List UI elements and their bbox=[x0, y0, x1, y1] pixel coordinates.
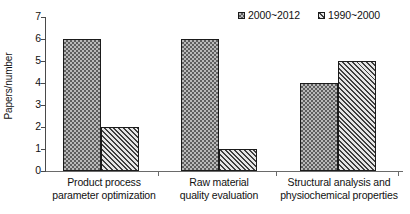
y-tick-label-3: 3 bbox=[35, 98, 41, 111]
y-tick-label-4: 4 bbox=[35, 76, 41, 89]
x-category-label-2-line2: quality evaluation bbox=[163, 189, 275, 202]
y-tick-label-7: 7 bbox=[35, 10, 41, 23]
x-category-label-3: Structural analysis and physiochemical p… bbox=[273, 176, 405, 202]
x-category-label-2: Raw material quality evaluation bbox=[163, 176, 275, 202]
x-category-label-3-line2: physiochemical properties bbox=[273, 189, 405, 202]
bar-group3-series1 bbox=[300, 83, 338, 171]
y-tick-label-1: 1 bbox=[35, 142, 41, 155]
x-category-label-3-line1: Structural analysis and bbox=[273, 176, 405, 189]
bar-group1-series2 bbox=[101, 127, 139, 171]
bar-group2-series2 bbox=[219, 149, 257, 171]
bar-chart: 2000~2012 1990~2000 Papers/number 0 1 2 … bbox=[0, 0, 410, 214]
x-axis-category-labels: Product process parameter optimization R… bbox=[45, 176, 403, 212]
bar-group2-series1 bbox=[181, 39, 219, 171]
x-category-label-1-line2: parameter optimization bbox=[39, 189, 169, 202]
y-axis-title: Papers/number bbox=[2, 0, 16, 172]
y-tick-label-5: 5 bbox=[35, 54, 41, 67]
y-tick-label-6: 6 bbox=[35, 32, 41, 45]
y-tick-label-2: 2 bbox=[35, 120, 41, 133]
bar-group1-series1 bbox=[63, 39, 101, 171]
x-category-label-2-line1: Raw material bbox=[163, 176, 275, 189]
x-category-label-1: Product process parameter optimization bbox=[39, 176, 169, 202]
plot-area: 0 1 2 3 4 5 6 7 bbox=[45, 18, 403, 172]
x-category-label-1-line1: Product process bbox=[39, 176, 169, 189]
x-axis-line bbox=[45, 171, 403, 172]
bar-group3-series2 bbox=[338, 61, 376, 171]
